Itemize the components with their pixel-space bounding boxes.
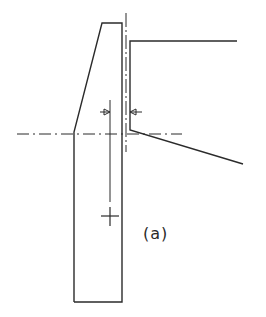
deck-outline xyxy=(130,41,243,164)
figure-label: (a) xyxy=(143,224,168,243)
diagram-canvas: (a) xyxy=(0,0,266,317)
left-dimension-arrow-icon xyxy=(100,109,110,115)
center-marker-plus-icon xyxy=(101,207,119,226)
pier-outline xyxy=(74,23,122,302)
right-dimension-arrow-icon xyxy=(130,109,142,115)
